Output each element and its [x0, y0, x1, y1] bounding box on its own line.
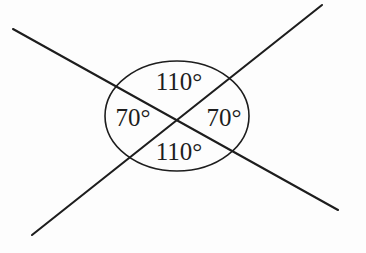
- figure-background: [0, 0, 366, 253]
- angle-label-top: 110°: [156, 68, 203, 95]
- angle-label-right: 70°: [207, 104, 242, 131]
- angle-label-left: 70°: [116, 104, 151, 131]
- diagram-canvas: 110° 70° 110° 70°: [0, 0, 366, 253]
- angles-figure: 110° 70° 110° 70°: [0, 0, 366, 253]
- angle-label-bottom: 110°: [156, 138, 203, 165]
